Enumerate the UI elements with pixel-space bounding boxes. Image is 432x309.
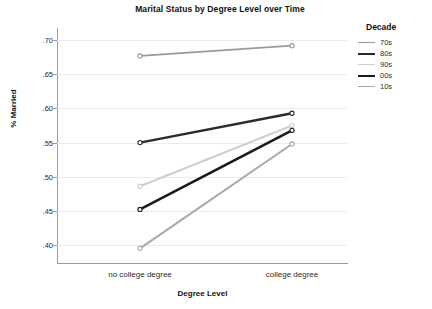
data-point: [290, 111, 294, 115]
series-line: [140, 130, 292, 209]
series-10s: [138, 142, 294, 251]
legend-item-80s[interactable]: 80s: [358, 48, 430, 59]
x-axis-title: Degree Level: [57, 289, 348, 298]
data-point: [138, 207, 142, 211]
series-layer: [57, 30, 347, 262]
y-tick-label: .45: [23, 206, 53, 215]
y-axis-title: % Married: [9, 59, 18, 159]
y-tick-label: .40: [23, 240, 53, 249]
data-point: [138, 54, 142, 58]
legend-label: 90s: [380, 60, 392, 69]
y-tick-label: .70: [23, 36, 53, 45]
y-tick-label: .60: [23, 104, 53, 113]
data-point: [290, 128, 294, 132]
legend-title: Decade: [366, 22, 430, 32]
data-point: [138, 184, 142, 188]
chart-container: Marital Status by Degree Level over Time…: [0, 0, 432, 309]
x-axis-line: [57, 263, 348, 264]
y-tick-label: .65: [23, 70, 53, 79]
series-line: [140, 126, 292, 187]
y-tick-label: .50: [23, 172, 53, 181]
series-80s: [138, 111, 294, 145]
legend-swatch-icon: [358, 53, 375, 55]
legend-item-90s[interactable]: 90s: [358, 59, 430, 70]
legend: Decade 70s80s90s00s10s: [358, 22, 430, 92]
legend-swatch-icon: [358, 64, 375, 65]
data-point: [138, 140, 142, 144]
legend-swatch-icon: [358, 42, 375, 43]
series-00s: [138, 128, 294, 211]
series-line: [140, 113, 292, 142]
legend-item-00s[interactable]: 00s: [358, 70, 430, 81]
y-tick-label: .55: [23, 138, 53, 147]
legend-swatch-icon: [358, 86, 375, 87]
data-point: [138, 246, 142, 250]
chart-title: Marital Status by Degree Level over Time: [0, 4, 432, 14]
series-90s: [138, 123, 294, 188]
x-tick-label: college degree: [266, 270, 318, 279]
data-point: [290, 44, 294, 48]
legend-label: 00s: [380, 71, 392, 80]
legend-label: 80s: [380, 49, 392, 58]
data-point: [290, 142, 294, 146]
plot-area: [57, 30, 347, 262]
legend-entries: 70s80s90s00s10s: [358, 37, 430, 92]
legend-label: 70s: [380, 38, 392, 47]
legend-swatch-icon: [358, 75, 375, 77]
x-tick-label: no college degree: [108, 270, 172, 279]
legend-item-10s[interactable]: 10s: [358, 81, 430, 92]
series-70s: [138, 44, 294, 58]
data-point: [290, 123, 294, 127]
series-line: [140, 46, 292, 56]
legend-item-70s[interactable]: 70s: [358, 37, 430, 48]
legend-label: 10s: [380, 82, 392, 91]
